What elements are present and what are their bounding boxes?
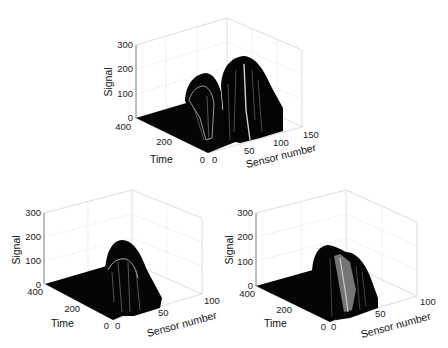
svg-text:200: 200 bbox=[64, 303, 80, 314]
svg-text:0: 0 bbox=[331, 321, 336, 332]
svg-text:50: 50 bbox=[375, 308, 386, 319]
surface-plot-bottom-left: 300 200 100 0 Signal 400 200 0 Time 0 50… bbox=[10, 190, 220, 339]
svg-text:400: 400 bbox=[115, 121, 131, 132]
x-axis-label: Sensor number bbox=[359, 310, 432, 340]
svg-text:100: 100 bbox=[273, 137, 289, 148]
surface-plot-bottom-right: 300 200 100 0 Signal 400 200 0 Time 0 50… bbox=[223, 190, 436, 340]
z-tick-labels: 300 200 100 0 bbox=[237, 207, 253, 291]
svg-text:200: 200 bbox=[237, 231, 253, 242]
x-axis-label: Sensor number bbox=[145, 309, 218, 339]
surface-ridge-2 bbox=[221, 56, 283, 143]
svg-text:400: 400 bbox=[27, 286, 43, 297]
svg-text:0: 0 bbox=[115, 320, 120, 331]
z-tick-labels: 300 200 100 0 bbox=[25, 207, 41, 290]
svg-text:0: 0 bbox=[212, 154, 217, 165]
y-axis-label: Time bbox=[264, 317, 287, 329]
svg-text:200: 200 bbox=[117, 63, 133, 74]
svg-text:400: 400 bbox=[239, 288, 255, 299]
z-axis-label: Signal bbox=[102, 67, 114, 96]
svg-text:0: 0 bbox=[104, 320, 109, 331]
svg-text:300: 300 bbox=[25, 207, 41, 218]
svg-text:0: 0 bbox=[200, 154, 205, 165]
z-tick-labels: 300 200 100 0 bbox=[117, 39, 133, 123]
y-axis-label: Time bbox=[150, 153, 173, 165]
y-axis-label: Time bbox=[51, 317, 74, 329]
svg-text:100: 100 bbox=[25, 255, 41, 266]
surface-ridge-1 bbox=[105, 240, 162, 316]
svg-text:100: 100 bbox=[420, 296, 436, 307]
svg-text:200: 200 bbox=[156, 136, 172, 147]
svg-text:100: 100 bbox=[117, 88, 133, 99]
svg-text:150: 150 bbox=[303, 129, 319, 140]
surface-plot-top: 300 200 100 0 Signal 400 200 0 Time 0 50… bbox=[102, 18, 319, 170]
svg-text:100: 100 bbox=[237, 256, 253, 267]
figure: 300 200 100 0 Signal 400 200 0 Time 0 50… bbox=[0, 0, 448, 348]
svg-text:0: 0 bbox=[321, 321, 326, 332]
svg-text:50: 50 bbox=[244, 145, 255, 156]
svg-text:300: 300 bbox=[117, 39, 133, 50]
z-axis-label: Signal bbox=[223, 235, 235, 264]
svg-text:100: 100 bbox=[204, 295, 220, 306]
z-axis-label: Signal bbox=[10, 235, 22, 264]
svg-text:300: 300 bbox=[237, 207, 253, 218]
svg-text:200: 200 bbox=[25, 231, 41, 242]
svg-text:200: 200 bbox=[276, 304, 292, 315]
svg-text:50: 50 bbox=[158, 307, 169, 318]
